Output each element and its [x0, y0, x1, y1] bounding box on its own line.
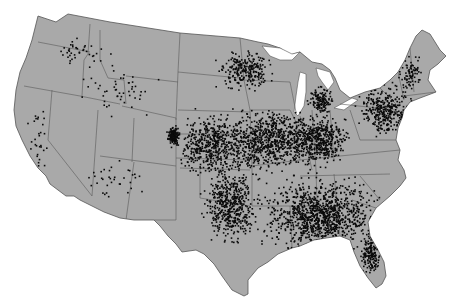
- us-landmass: [14, 14, 446, 296]
- us-map: [0, 0, 459, 303]
